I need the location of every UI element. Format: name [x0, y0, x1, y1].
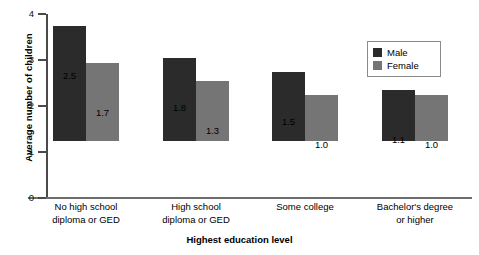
x-category-label-2-line-1: High school [141, 201, 251, 214]
x-category-label-1-line-2: diploma or GED [31, 214, 141, 227]
legend: Male Female [367, 41, 441, 77]
legend-item-male: Male [373, 46, 435, 59]
x-category-label-1: No high schooldiploma or GED [31, 201, 141, 226]
bar-value-female-group-3: 1.0 [305, 139, 339, 150]
bar-female-group-4 [415, 95, 448, 141]
bar-female-group-3 [305, 95, 338, 141]
bar-value-male-group-3: 1.5 [272, 116, 306, 127]
bar-chart: Average number of children 01234 2.51.71… [0, 0, 479, 255]
x-category-label-2-line-2: diploma or GED [141, 214, 251, 227]
x-category-label-4-line-1: Bachelor's degree [360, 201, 470, 214]
x-axis-title: Highest education level [0, 234, 479, 245]
bar-male-group-1 [53, 26, 86, 141]
x-category-label-4: Bachelor's degreeor higher [360, 201, 470, 226]
x-category-label-2: High schooldiploma or GED [141, 201, 251, 226]
bar-value-male-group-2: 1.8 [163, 102, 197, 113]
x-category-label-4-line-2: or higher [360, 214, 470, 227]
plot-area: 2.51.71.81.31.51.01.11.0 [0, 0, 479, 198]
x-category-label-3-line-1: Some college [250, 201, 360, 214]
legend-swatch-female [373, 61, 382, 70]
bar-male-group-2 [163, 58, 196, 141]
bar-value-male-group-1: 2.5 [53, 70, 87, 81]
bar-value-female-group-1: 1.7 [86, 107, 120, 118]
bar-value-female-group-2: 1.3 [196, 125, 230, 136]
bar-value-female-group-4: 1.0 [415, 139, 449, 150]
x-category-label-1-line-1: No high school [31, 201, 141, 214]
legend-label-female: Female [387, 61, 419, 71]
legend-item-female: Female [373, 59, 435, 72]
x-category-label-3: Some college [250, 201, 360, 214]
bar-male-group-3 [272, 72, 305, 141]
bar-female-group-1 [86, 63, 119, 141]
legend-swatch-male [373, 48, 382, 57]
legend-label-male: Male [387, 48, 408, 58]
bar-value-male-group-4: 1.1 [382, 134, 416, 145]
